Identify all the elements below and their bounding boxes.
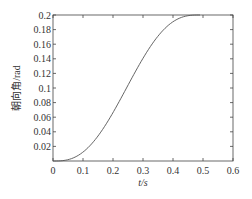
y-tick-label: 0.16 [34,39,52,50]
x-tick-label: 0.4 [167,165,180,176]
axes-box [53,15,233,161]
x-axis-ticks: 00.10.20.30.40.50.6 [51,15,240,176]
y-tick-label: 0.08 [34,97,52,108]
x-tick-label: 0.1 [77,165,90,176]
y-tick-label: 0.14 [34,53,52,64]
plot-frame [53,15,233,161]
x-axis-label: t/s [138,177,148,188]
x-tick-label: 0.2 [107,165,120,176]
heading-angle-chart: 00.10.20.30.40.50.6 0.020.040.060.080.10… [0,0,252,199]
y-tick-label: 0.12 [34,68,52,79]
x-tick-label: 0.5 [197,165,210,176]
y-tick-label: 0.18 [34,24,52,35]
x-tick-label: 0 [51,165,56,176]
y-tick-label: 0.06 [34,112,52,123]
x-tick-label: 0.6 [227,165,240,176]
x-tick-label: 0.3 [137,165,150,176]
y-axis-label: 朝向角/rad [10,65,22,111]
y-tick-label: 0.1 [39,83,52,94]
y-tick-label: 0.2 [39,10,52,21]
y-tick-label: 0.04 [34,126,52,137]
heading-angle-curve [53,15,200,161]
y-tick-label: 0.02 [34,141,52,152]
y-axis-ticks: 0.020.040.060.080.10.120.140.160.180.2 [34,10,234,152]
